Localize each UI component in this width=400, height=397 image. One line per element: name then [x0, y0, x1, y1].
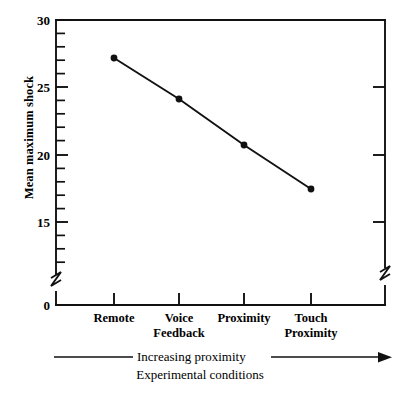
x-axis-title: Experimental conditions	[0, 368, 400, 382]
y-major-ticks	[56, 20, 68, 222]
y-minor-ticks	[56, 33, 65, 262]
data-point-voice-feedback	[176, 96, 183, 103]
data-point-proximity	[241, 142, 248, 149]
y-axis-break-left-icon	[51, 272, 61, 286]
chart-figure: Mean maximum shock 30 25 20 15 0	[0, 0, 400, 397]
x-tick-label-voice-feedback-line2: Feedback	[124, 326, 234, 341]
x-tick-label-touch-proximity-line1: Touch	[256, 311, 366, 326]
x-ticks	[114, 293, 311, 305]
x-tick-label-touch-proximity: Touch Proximity	[256, 311, 366, 340]
y-axis-break-right-icon	[380, 266, 390, 280]
data-point-remote	[111, 55, 118, 62]
data-line-series-1	[114, 58, 311, 189]
data-point-touch-proximity	[308, 186, 315, 193]
x-tick-label-touch-proximity-line2: Proximity	[256, 326, 366, 341]
arrow-head-icon	[378, 352, 392, 362]
increasing-proximity-label: Increasing proximity	[137, 350, 246, 364]
y-right-ticks	[373, 87, 385, 222]
